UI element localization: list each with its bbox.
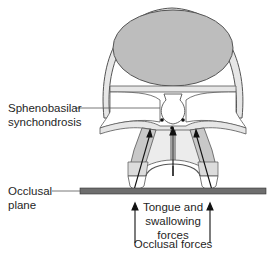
tongue-label-line1: Tongue and	[140, 200, 206, 214]
sphenobasilar-label-line2: synchondrosis	[8, 115, 82, 129]
occlusal-plane-label: Occlusal plane	[8, 184, 52, 212]
sphenobasilar-label: Sphenobasilar synchondrosis	[8, 101, 82, 129]
diagram-svg	[0, 0, 274, 258]
occlusal-plane-bar	[80, 188, 266, 194]
sphenobasilar-label-line1: Sphenobasilar	[8, 101, 82, 115]
synchondrosis	[161, 94, 184, 124]
skull-coronal-diagram: Sphenobasilar synchondrosis Occlusal pla…	[0, 0, 274, 258]
occlusal-forces-label: Occlusal forces	[132, 237, 214, 251]
occlusal-plane-label-line2: plane	[8, 198, 52, 212]
tongue-forces-label: Tongue and swallowing forces	[140, 200, 206, 242]
occlusal-plane-label-line1: Occlusal	[8, 184, 52, 198]
cranial-cavity	[113, 10, 233, 86]
tongue-label-line2: swallowing	[140, 214, 206, 228]
